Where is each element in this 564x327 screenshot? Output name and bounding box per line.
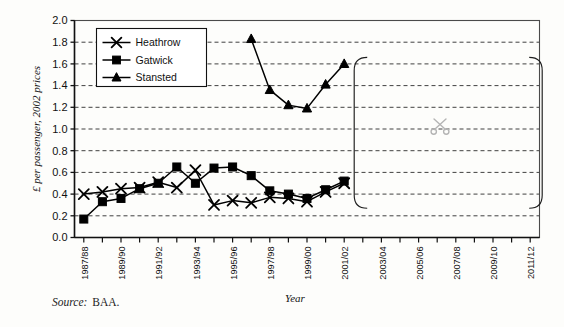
series-stansted <box>247 34 349 112</box>
x-tick-label: 1997/98 <box>266 247 276 280</box>
legend-label: Gatwick <box>136 54 174 66</box>
legend-label: Heathrow <box>136 36 181 48</box>
marker-square <box>173 163 181 171</box>
marker-square <box>136 185 144 193</box>
annotation-layer <box>354 57 542 208</box>
y-tick-label: 1.0 <box>52 123 67 135</box>
series-line <box>84 167 344 219</box>
marker-triangle <box>284 100 293 109</box>
x-tick-label: 1987/88 <box>80 247 90 280</box>
x-tick-label: 1991/92 <box>154 247 164 280</box>
source-caption: Source:BAA. <box>52 296 120 308</box>
marker-square <box>210 164 218 172</box>
y-tick-label: 1.8 <box>52 36 67 48</box>
x-tick-label: 1995/96 <box>229 247 239 280</box>
y-axis-ticks: 0.00.20.40.60.81.01.21.41.61.82.0 <box>52 14 74 243</box>
x-tick-label: 2007/08 <box>452 247 462 280</box>
series-line <box>251 39 344 108</box>
y-tick-label: 0.8 <box>52 145 67 157</box>
x-tick-label: 1999/00 <box>303 247 313 280</box>
marker-triangle <box>265 85 274 94</box>
line-chart: 0.00.20.40.60.81.01.21.41.61.82.0 1987/8… <box>0 0 564 327</box>
y-tick-label: 1.2 <box>52 101 67 113</box>
y-tick-label: 2.0 <box>52 14 67 26</box>
y-tick-label: 0.6 <box>52 166 67 178</box>
marker-square <box>266 187 274 195</box>
y-tick-label: 0.4 <box>52 188 67 200</box>
marker-square <box>191 179 199 187</box>
x-axis-ticks: 1987/881989/901991/921993/941995/961997/… <box>80 238 536 280</box>
x-tick-label: 2005/06 <box>415 247 425 280</box>
marker-square <box>113 56 121 64</box>
x-tick-label: 1989/90 <box>117 247 127 280</box>
marker-square <box>98 198 106 206</box>
x-tick-label: 1993/94 <box>192 247 202 280</box>
marker-square <box>80 215 88 223</box>
y-axis-title: £ per passenger, 2002 prices <box>30 66 42 192</box>
marker-square <box>154 179 162 187</box>
y-tick-label: 1.6 <box>52 58 67 70</box>
source-label: Source: <box>52 296 87 308</box>
x-tick-label: 2003/04 <box>378 247 388 280</box>
figure-container: 0.00.20.40.60.81.01.21.41.61.82.0 1987/8… <box>0 0 564 327</box>
y-tick-label: 0.0 <box>52 231 67 243</box>
x-tick-label: 2001/02 <box>340 247 350 280</box>
marker-square <box>303 194 311 202</box>
marker-triangle <box>247 34 256 43</box>
x-tick-label: 2011/12 <box>526 247 536 280</box>
source-value: BAA. <box>92 296 119 308</box>
x-tick-label: 2009/10 <box>489 247 499 280</box>
chart-legend: HeathrowGatwickStansted <box>97 29 207 87</box>
marker-square <box>322 186 330 194</box>
scissors-icon <box>431 119 449 134</box>
marker-triangle <box>340 59 349 68</box>
y-tick-label: 1.4 <box>52 79 67 91</box>
x-axis-title: Year <box>285 292 305 304</box>
y-tick-label: 0.2 <box>52 210 67 222</box>
marker-square <box>247 172 255 180</box>
marker-square <box>117 194 125 202</box>
legend-label: Stansted <box>136 71 178 83</box>
marker-square <box>284 190 292 198</box>
marker-square <box>340 177 348 185</box>
marker-square <box>229 163 237 171</box>
